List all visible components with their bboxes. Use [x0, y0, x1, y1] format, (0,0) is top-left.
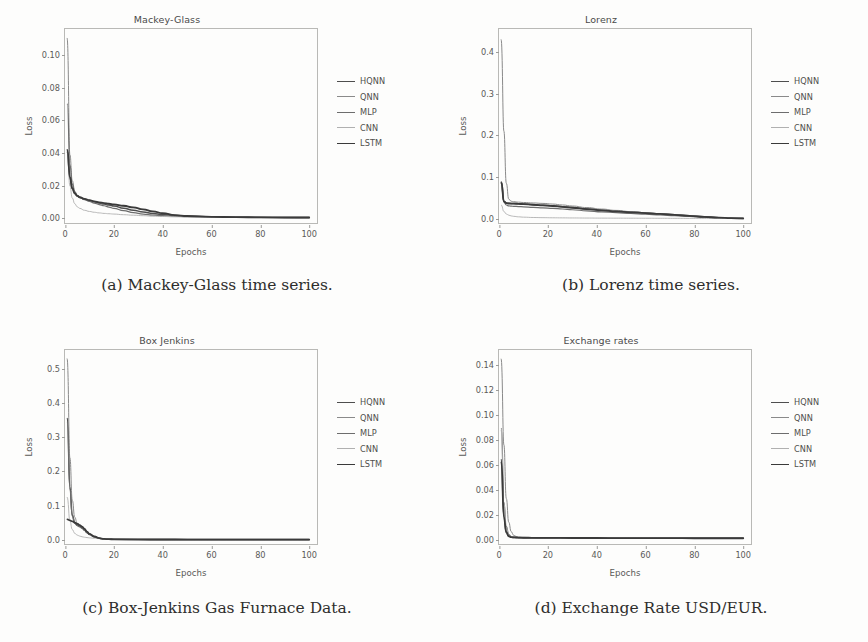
legend-item-label: QNN [794, 92, 813, 102]
legend-line-icon [771, 143, 789, 144]
legend-item-label: LSTM [794, 459, 816, 469]
y-axis-label: Loss [23, 28, 35, 224]
legend-item: CNN [771, 444, 819, 454]
legend-item-label: MLP [794, 428, 811, 438]
legend-item-label: QNN [360, 413, 379, 423]
y-tick-label: 0.12 [476, 385, 494, 395]
series-line [501, 182, 743, 218]
legend-item: MLP [337, 428, 385, 438]
curve-layer [499, 350, 753, 546]
series-line [67, 497, 309, 540]
plot-title: Box Jenkins [17, 335, 317, 346]
legend-line-icon [771, 402, 789, 403]
subfigure-mackey-glass: Mackey-Glass Loss 0.000.020.040.060.080.… [0, 0, 434, 321]
y-tick-label: 0.02 [476, 510, 494, 520]
subfigure-box-jenkins: Box Jenkins Loss 0.00.10.20.30.40.502040… [0, 321, 434, 642]
x-tick-label: 60 [640, 229, 650, 239]
subfigure-lorenz: Lorenz Loss 0.00.10.20.30.4020406080100 … [434, 0, 868, 321]
legend-item: CNN [771, 123, 819, 133]
series-line [67, 519, 309, 539]
series-line [501, 359, 743, 539]
x-tick-label: 0 [496, 229, 501, 239]
legend-item: MLP [771, 428, 819, 438]
legend-item-label: CNN [794, 444, 812, 454]
y-tick-label: 0.1 [47, 501, 60, 511]
series-line [501, 430, 743, 538]
y-tick-label: 0.4 [481, 47, 494, 57]
legend-item-label: MLP [360, 428, 377, 438]
y-tick-label: 0.0 [481, 214, 494, 224]
legend-item: QNN [771, 413, 819, 423]
x-tick-label: 40 [591, 550, 601, 560]
x-tick-label: 100 [301, 229, 317, 239]
legend-item: HQNN [771, 397, 819, 407]
x-tick-label: 60 [206, 550, 216, 560]
legend-item: CNN [337, 123, 385, 133]
axes-area: 0.000.020.040.060.080.100.120.1402040608… [498, 349, 752, 545]
plot-title: Exchange rates [451, 335, 751, 346]
series-line [67, 38, 309, 218]
legend-item-label: LSTM [360, 459, 382, 469]
legend-item: QNN [337, 92, 385, 102]
series-line [67, 152, 309, 217]
legend-item-label: LSTM [794, 138, 816, 148]
axes-area: 0.000.020.040.060.080.10020406080100 [64, 28, 318, 224]
y-tick-label: 0.3 [47, 432, 60, 442]
legend-item: QNN [771, 92, 819, 102]
legend-line-icon [771, 448, 789, 449]
legend: HQNNQNNMLPCNNLSTM [771, 76, 819, 148]
legend-line-icon [771, 127, 789, 128]
y-axis-label: Loss [23, 349, 35, 545]
legend-item-label: HQNN [794, 76, 819, 86]
x-tick-label: 0 [62, 550, 67, 560]
legend-item-label: MLP [794, 107, 811, 117]
legend-item: MLP [337, 107, 385, 117]
y-tick-label: 0.06 [42, 115, 60, 125]
x-axis-label: Epochs [64, 568, 318, 578]
legend-item: HQNN [771, 76, 819, 86]
x-tick-label: 20 [109, 229, 119, 239]
curve-layer [65, 29, 319, 225]
subfigure-caption: (b) Lorenz time series. [562, 276, 740, 294]
legend-item-label: LSTM [360, 138, 382, 148]
legend-line-icon [337, 417, 355, 418]
series-line [501, 39, 743, 218]
legend-item-label: CNN [360, 123, 378, 133]
legend-item: CNN [337, 444, 385, 454]
x-tick-label: 40 [157, 229, 167, 239]
x-tick-label: 0 [496, 550, 501, 560]
legend-line-icon [771, 464, 789, 465]
series-line [67, 104, 309, 218]
series-line [67, 423, 309, 540]
y-tick-label: 0.10 [476, 410, 494, 420]
legend-item-label: HQNN [794, 397, 819, 407]
legend: HQNNQNNMLPCNNLSTM [337, 76, 385, 148]
y-tick-label: 0.2 [481, 130, 494, 140]
curve-layer [65, 350, 319, 546]
y-tick-label: 0.4 [47, 398, 60, 408]
y-tick-label: 0.04 [42, 148, 60, 158]
series-line [67, 359, 309, 540]
series-line [67, 150, 309, 218]
legend-line-icon [337, 464, 355, 465]
legend-line-icon [337, 81, 355, 82]
legend-item-label: CNN [794, 123, 812, 133]
y-tick-label: 0.06 [476, 460, 494, 470]
legend-item-label: QNN [360, 92, 379, 102]
legend-item: LSTM [337, 459, 385, 469]
y-tick-label: 0.3 [481, 89, 494, 99]
legend-item: HQNN [337, 76, 385, 86]
curve-layer [499, 29, 753, 225]
legend-item: LSTM [771, 138, 819, 148]
axes-area: 0.00.10.20.30.40.5020406080100 [64, 349, 318, 545]
y-tick-label: 0.2 [47, 466, 60, 476]
plot-box-jenkins: Box Jenkins Loss 0.00.10.20.30.40.502040… [17, 335, 417, 593]
legend-line-icon [771, 81, 789, 82]
y-tick-label: 0.00 [476, 535, 494, 545]
legend-item-label: MLP [360, 107, 377, 117]
legend-item: LSTM [337, 138, 385, 148]
x-tick-label: 80 [689, 550, 699, 560]
legend-line-icon [771, 433, 789, 434]
y-tick-label: 0.00 [42, 213, 60, 223]
x-tick-label: 20 [543, 229, 553, 239]
